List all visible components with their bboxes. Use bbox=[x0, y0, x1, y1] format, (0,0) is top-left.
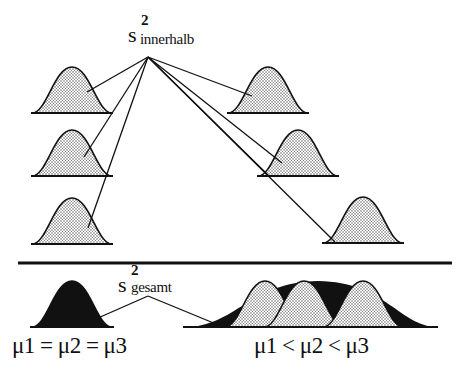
left-curve-3 bbox=[31, 198, 113, 244]
total-variance-subscript: gesamt bbox=[131, 279, 172, 296]
equal-means-label: μ1 = μ2 = μ3 bbox=[12, 333, 126, 359]
equal-means-distribution bbox=[30, 281, 114, 327]
within-variance-superscript: 2 bbox=[141, 12, 149, 29]
left-column-distributions bbox=[31, 67, 113, 244]
total-connectors bbox=[98, 296, 216, 324]
diagram-canvas bbox=[0, 0, 470, 376]
within-variance-base: s bbox=[128, 24, 137, 46]
total-variance-superscript: 2 bbox=[131, 262, 139, 279]
left-curve-2 bbox=[31, 130, 113, 176]
right-curve-3 bbox=[322, 197, 404, 243]
left-curve-1 bbox=[31, 67, 113, 113]
right-curve-1 bbox=[227, 67, 309, 113]
different-means-distribution bbox=[183, 281, 438, 327]
total-variance-base: s bbox=[118, 274, 127, 296]
within-variance-subscript: innerhalb bbox=[140, 31, 194, 48]
different-means-label: μ1 < μ2 < μ3 bbox=[254, 333, 368, 359]
right-column-distributions bbox=[227, 67, 404, 243]
